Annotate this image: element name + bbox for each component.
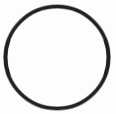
circle-outline-icon xyxy=(0,0,116,114)
circle-stroke-left-thickening xyxy=(6,40,9,75)
circle-stroke-right-thickening xyxy=(105,40,108,75)
circle-outline-stroke xyxy=(6,7,109,109)
image-canvas xyxy=(0,0,116,114)
